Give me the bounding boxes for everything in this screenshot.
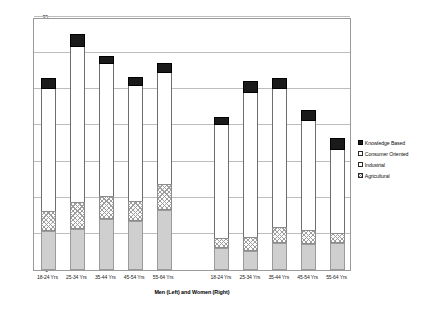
segment-consumer-oriented (128, 86, 143, 200)
segment-knowledge-based (157, 63, 172, 74)
segment-consumer-oriented (272, 89, 287, 228)
bar-stack (330, 138, 345, 270)
business-creation-prevalence-chart: Business Creation Prevalence (#/100) 051… (0, 0, 426, 318)
bar-stack (70, 34, 85, 270)
segment-knowledge-based (70, 34, 85, 46)
x-axis-tick-label: 55-64 Yrs (142, 275, 184, 280)
segment-consumer-oriented (330, 150, 345, 233)
legend-item: Industrial (358, 159, 424, 170)
segment-agricultural (272, 227, 287, 242)
legend-item-label: Knowledge Based (365, 140, 405, 146)
knowledge-swatch-icon (358, 140, 363, 145)
consumer-swatch-icon (358, 151, 363, 156)
segment-industrial (128, 221, 143, 270)
segment-agricultural (70, 202, 85, 229)
bar-stack (41, 78, 56, 270)
segment-industrial (157, 210, 172, 270)
segment-industrial (330, 243, 345, 270)
x-axis-tick-label: 55-64 Yrs (316, 275, 358, 280)
bar-stack (272, 78, 287, 270)
industrial-swatch-icon (358, 162, 363, 167)
bar-stack (99, 56, 114, 270)
segment-industrial (272, 243, 287, 270)
segment-agricultural (41, 211, 56, 231)
segment-industrial (214, 248, 229, 270)
segment-knowledge-based (301, 110, 316, 121)
segment-industrial (243, 251, 258, 270)
bar-stack (214, 117, 229, 270)
legend-item: Agricultural (358, 170, 424, 181)
gridline (34, 16, 350, 17)
segment-agricultural (330, 233, 345, 243)
bar-stack (243, 81, 258, 270)
segment-consumer-oriented (243, 93, 258, 237)
segment-industrial (70, 229, 85, 270)
segment-agricultural (128, 201, 143, 221)
segment-knowledge-based (214, 117, 229, 126)
segment-agricultural (157, 184, 172, 210)
legend-item: Consumer Oriented (358, 148, 424, 159)
legend-item: Knowledge Based (358, 137, 424, 148)
legend-item-label: Agricultural (365, 173, 390, 179)
bar-stack (157, 63, 172, 270)
segment-agricultural (214, 238, 229, 248)
segment-consumer-oriented (70, 47, 85, 202)
segment-consumer-oriented (157, 73, 172, 184)
segment-industrial (41, 231, 56, 270)
legend-item-label: Industrial (365, 162, 385, 168)
x-axis-title: Men (Left) and Women (Right) (33, 289, 351, 295)
segment-consumer-oriented (214, 125, 229, 238)
bar-stack (128, 77, 143, 270)
agricultural-swatch-icon (358, 173, 363, 178)
segment-agricultural (301, 230, 316, 244)
segment-knowledge-based (99, 56, 114, 64)
segment-knowledge-based (272, 78, 287, 88)
segment-consumer-oriented (301, 121, 316, 230)
segment-agricultural (99, 196, 114, 219)
segment-knowledge-based (243, 81, 258, 93)
segment-agricultural (243, 237, 258, 251)
legend-item-label: Consumer Oriented (365, 151, 409, 157)
segment-knowledge-based (330, 138, 345, 150)
chart-legend: Knowledge BasedConsumer OrientedIndustri… (358, 137, 424, 181)
segment-industrial (99, 219, 114, 270)
segment-knowledge-based (41, 78, 56, 88)
segment-knowledge-based (128, 77, 143, 86)
segment-consumer-oriented (41, 89, 56, 212)
plot-area (33, 18, 351, 271)
segment-industrial (301, 244, 316, 270)
segment-consumer-oriented (99, 64, 114, 196)
bar-stack (301, 110, 316, 270)
